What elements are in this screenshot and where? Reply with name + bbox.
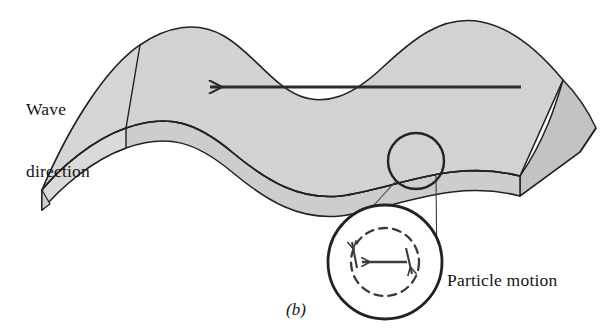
panel-letter-label: (b) <box>286 300 306 320</box>
water-slab <box>42 21 596 217</box>
wave-diagram-figure: Wave direction Particle motion (b) <box>0 0 603 333</box>
wave-direction-label-line2: direction <box>26 161 90 182</box>
wave-direction-label: Wave direction <box>26 58 90 223</box>
particle-motion-detail <box>328 205 442 319</box>
particle-motion-label: Particle motion <box>447 270 557 291</box>
wave-direction-label-line1: Wave <box>26 99 90 120</box>
